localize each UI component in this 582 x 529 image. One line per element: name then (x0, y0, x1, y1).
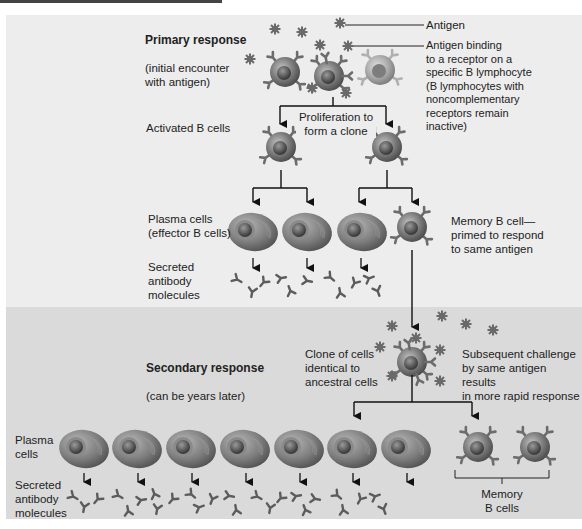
subsequent-challenge-label: Subsequent challenge by same antigen res… (462, 347, 582, 403)
memory-b-cell-label-primary: Memory B cell— primed to respond to same… (451, 214, 544, 256)
primary-response-subtitle: (initial encounter with antigen) (145, 61, 246, 89)
secretion-arrows-secondary (84, 473, 407, 482)
plasma-cells-label-secondary: Plasma cells (15, 433, 53, 461)
secreted-antibody-label-secondary: Secreted antibody molecules (15, 478, 67, 520)
proliferation-label: Proliferation to form a clone (296, 110, 376, 138)
primary-response-heading: Primary response (initial encounter with… (145, 19, 246, 103)
antigen-pointer-lines (345, 25, 424, 46)
b-lymphocytes-primary (264, 40, 402, 99)
secreted-antibody-label-primary: Secreted antibody molecules (148, 260, 200, 302)
antigen-binding-label: Antigen binding to a receptor on a speci… (426, 39, 532, 134)
activated-b-cells-label: Activated B cells (146, 121, 230, 135)
secondary-response-title: Secondary response (146, 361, 264, 375)
antigen-icons-primary (245, 18, 346, 65)
plasma-cells-label-primary: Plasma cells (effector B cells) (148, 212, 231, 240)
plasma-cells-secondary (57, 427, 434, 472)
differentiation-arrows (253, 170, 412, 202)
antigen-label: Antigen (426, 18, 465, 32)
antibodies-secondary (68, 488, 389, 516)
memory-b-cells-secondary (457, 427, 555, 464)
plasma-cells-primary (226, 207, 432, 254)
memory-b-cells-label-secondary: Memory B cells (480, 487, 524, 515)
clone-of-cells-label: Clone of cells identical to ancestral ce… (305, 347, 378, 389)
antibodies-primary (232, 272, 383, 298)
secondary-response-subtitle: (can be years later) (146, 389, 264, 403)
primary-response-title: Primary response (145, 33, 246, 47)
secondary-response-heading: Secondary response (can be years later) (146, 347, 264, 417)
memory-bracket (455, 470, 549, 484)
clone-cell-secondary (387, 339, 446, 387)
secretion-arrows-primary (253, 258, 361, 268)
